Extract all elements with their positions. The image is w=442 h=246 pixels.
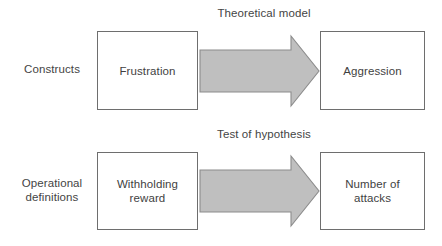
node-box-frustration[interactable]: Frustration — [97, 31, 198, 110]
node-box-aggression[interactable]: Aggression — [320, 31, 425, 110]
node-box-number-of-attacks[interactable]: Number of attacks — [320, 152, 425, 230]
node-box-number-of-attacks-label: Number of attacks — [345, 177, 400, 205]
diagram-canvas: Theoretical model Constructs Frustration… — [0, 0, 442, 246]
node-box-aggression-label: Aggression — [343, 64, 402, 78]
node-box-withholding-reward-label: Withholding reward — [117, 177, 178, 205]
node-box-frustration-label: Frustration — [119, 64, 175, 78]
node-box-withholding-reward[interactable]: Withholding reward — [97, 152, 198, 230]
